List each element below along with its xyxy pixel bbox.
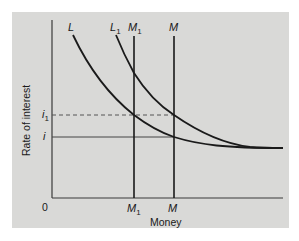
i1-label: i1 [42,108,49,123]
i-label: i [43,130,46,142]
l-curve [73,35,283,148]
l1-curve [116,35,283,148]
x-axis-label: Money [150,216,182,228]
liquidity-diagram: L L1 M1 M i1 i Rate of interest 0 M1 M M… [0,0,299,241]
y-axis-label: Rate of interest [20,85,32,156]
m1-supply-label: M1 [128,21,142,36]
m-tick-label: M [168,202,178,214]
origin-label: 0 [42,201,48,213]
m1-tick-label: M1 [127,202,141,217]
m-supply-label: M [169,21,179,33]
l1-curve-label: L1 [110,21,121,36]
l-curve-label: L [68,21,74,33]
